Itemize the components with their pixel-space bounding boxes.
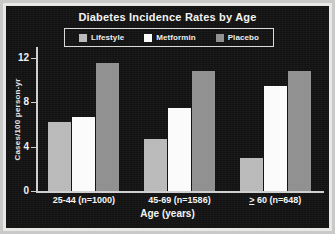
chart-canvas: Diabetes Incidence Rates by Age Lifestyl… <box>6 6 329 228</box>
bar-placebo <box>192 71 215 191</box>
bar-group <box>45 47 123 191</box>
bar-placebo <box>288 71 311 191</box>
bar-group <box>236 47 314 191</box>
legend-swatch-lifestyle <box>79 34 87 42</box>
bar-placebo <box>96 63 119 191</box>
bar-lifestyle <box>48 122 71 191</box>
plot-area: 04812 <box>36 47 323 191</box>
y-axis-title: Cases/100 person-yr <box>10 47 24 191</box>
y-tick-label: 12 <box>18 53 29 63</box>
legend-item-placebo: Placebo <box>216 33 259 42</box>
x-group-label: 45-69 (n=1586) <box>129 195 231 205</box>
bar-lifestyle <box>240 158 263 191</box>
bar-metformin <box>72 117 95 191</box>
y-tick-mark <box>31 102 36 103</box>
bar-lifestyle <box>144 139 167 191</box>
y-tick-label: 0 <box>23 186 29 196</box>
legend-item-metformin: Metformin <box>144 33 196 42</box>
bar-group <box>141 47 219 191</box>
y-axis-title-text: Cases/100 person-yr <box>13 78 22 160</box>
legend-label-lifestyle: Lifestyle <box>91 33 124 42</box>
bar-metformin <box>168 108 191 191</box>
x-axis-title: Age (years) <box>6 208 329 219</box>
x-group-label: > 60 (n=648) <box>224 195 326 205</box>
y-tick-mark <box>31 58 36 59</box>
y-tick-mark <box>31 191 36 192</box>
bar-metformin <box>264 86 287 191</box>
y-tick-mark <box>31 147 36 148</box>
chart-figure: Diabetes Incidence Rates by Age Lifestyl… <box>0 0 335 234</box>
x-group-label: 25-44 (n=1000) <box>33 195 135 205</box>
y-tick-label: 8 <box>23 97 29 107</box>
chart-legend: Lifestyle Metformin Placebo <box>64 28 274 47</box>
legend-label-placebo: Placebo <box>228 33 259 42</box>
x-axis-line <box>36 191 324 193</box>
legend-swatch-metformin <box>144 34 152 42</box>
legend-swatch-placebo <box>216 34 224 42</box>
legend-item-lifestyle: Lifestyle <box>79 33 124 42</box>
chart-title: Diabetes Incidence Rates by Age <box>6 11 329 23</box>
y-tick-label: 4 <box>23 142 29 152</box>
legend-label-metformin: Metformin <box>156 33 196 42</box>
